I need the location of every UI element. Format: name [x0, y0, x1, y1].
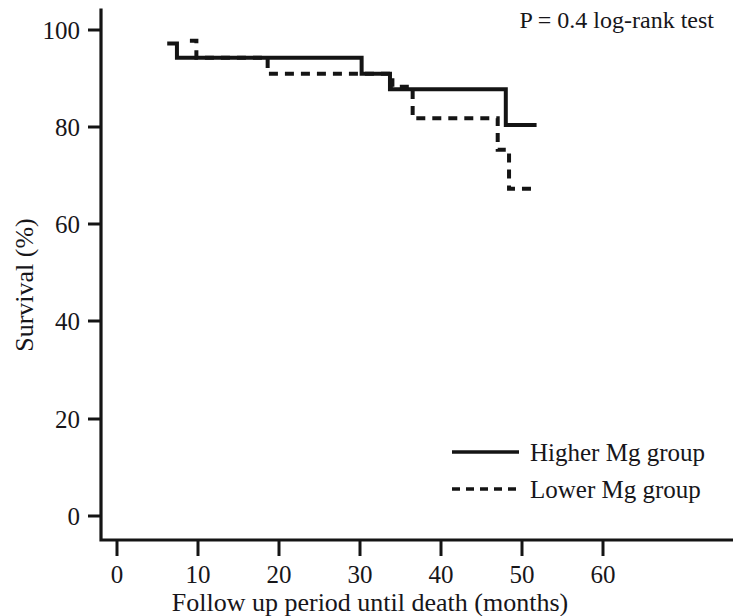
x-axis-ticks [117, 540, 603, 556]
y-tick-label-80: 80 [55, 114, 80, 141]
x-tick-label-20: 20 [267, 561, 292, 588]
legend-label-lower-mg: Lower Mg group [530, 476, 701, 503]
x-axis-tick-labels: 0 10 20 30 40 50 60 [111, 561, 616, 588]
y-tick-label-20: 20 [55, 406, 80, 433]
chart-canvas: 100 80 60 40 20 0 0 10 20 30 40 50 60 [0, 0, 733, 616]
x-tick-label-10: 10 [186, 561, 211, 588]
x-axis-title: Follow up period until death (months) [172, 588, 568, 616]
p-value-annotation: P = 0.4 log-rank test [519, 7, 714, 33]
y-tick-label-0: 0 [68, 503, 81, 530]
y-axis-title: Survival (%) [10, 218, 39, 352]
y-tick-label-100: 100 [43, 17, 81, 44]
chart-legend: Higher Mg group Lower Mg group [452, 439, 705, 503]
x-tick-label-0: 0 [111, 561, 124, 588]
y-tick-label-60: 60 [55, 211, 80, 238]
x-tick-label-50: 50 [510, 561, 535, 588]
y-tick-label-40: 40 [55, 308, 80, 335]
y-axis-ticks [88, 30, 101, 516]
x-tick-label-30: 30 [348, 561, 373, 588]
y-axis-tick-labels: 100 80 60 40 20 0 [43, 17, 81, 530]
legend-label-higher-mg: Higher Mg group [530, 439, 705, 466]
x-tick-label-60: 60 [591, 561, 616, 588]
x-tick-label-40: 40 [429, 561, 454, 588]
survival-chart-figure: 100 80 60 40 20 0 0 10 20 30 40 50 60 [0, 0, 733, 616]
